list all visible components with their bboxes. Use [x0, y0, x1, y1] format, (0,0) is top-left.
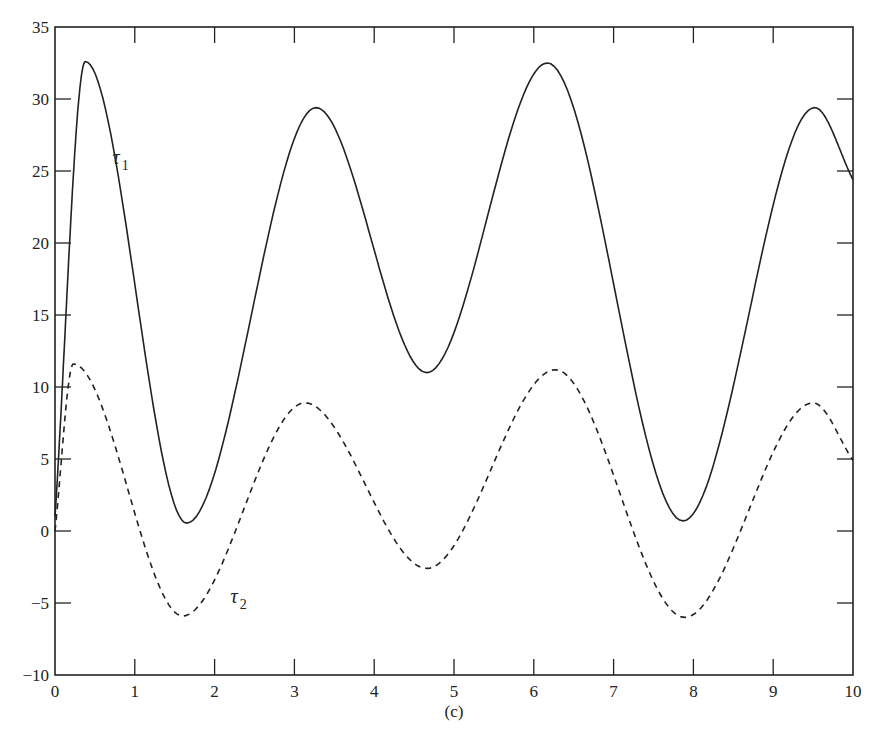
x-tick-label: 8 [689, 682, 698, 701]
plot-frame [55, 27, 853, 675]
line-chart: 012345678910 −10−505101520253035 τ1τ2 (c… [0, 0, 878, 749]
x-tick-label: 9 [769, 682, 778, 701]
x-tick-label: 4 [370, 682, 379, 701]
x-tick-label: 7 [609, 682, 618, 701]
y-tick-label: 35 [32, 18, 49, 37]
y-tick-label: −5 [31, 594, 49, 613]
y-tick-label: 0 [41, 522, 50, 541]
series-label-1: τ1 [112, 146, 128, 173]
y-tick-label: 15 [32, 306, 49, 325]
x-tick-label: 6 [530, 682, 539, 701]
y-axis-ticks: −10−505101520253035 [22, 18, 853, 685]
series-line-1 [55, 62, 853, 523]
series-label-2: τ2 [231, 585, 247, 612]
y-tick-label: 5 [41, 450, 50, 469]
figure-caption: (c) [445, 702, 464, 721]
x-tick-label: 10 [845, 682, 862, 701]
y-tick-label: 25 [32, 162, 49, 181]
y-tick-label: 10 [32, 378, 49, 397]
x-tick-label: 0 [51, 682, 60, 701]
y-tick-label: 20 [32, 234, 49, 253]
series-line-2 [55, 364, 853, 617]
plot-border [55, 27, 853, 675]
series-layer [55, 62, 853, 618]
x-axis-ticks: 012345678910 [51, 27, 862, 701]
x-tick-label: 3 [290, 682, 299, 701]
y-tick-label: 30 [32, 90, 49, 109]
x-tick-label: 2 [210, 682, 219, 701]
x-tick-label: 1 [131, 682, 140, 701]
series-labels: τ1τ2 [112, 146, 246, 612]
x-tick-label: 5 [450, 682, 459, 701]
y-tick-label: −10 [22, 666, 49, 685]
